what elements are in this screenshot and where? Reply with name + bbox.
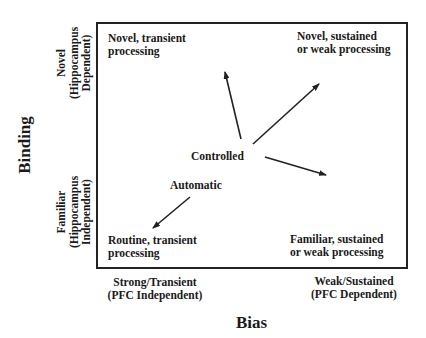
x-right-label-line-1: Weak/Sustained: [304, 275, 404, 288]
arrow-controlled-to-familiar-sustained: [265, 157, 326, 175]
arrow-controlled-to-novel-transient: [225, 72, 241, 139]
x-axis-left-label: Strong/Transient (PFC Independent): [100, 276, 210, 301]
x-axis-right-label: Weak/Sustained (PFC Dependent): [304, 275, 404, 300]
x-left-label-line-1: Strong/Transient: [100, 276, 210, 289]
arrow-controlled-to-novel-sustained: [253, 84, 319, 144]
x-left-label-line-2: (PFC Independent): [100, 289, 210, 302]
arrow-automatic-to-routine-transient: [153, 197, 190, 228]
x-axis-title: Bias: [236, 313, 267, 333]
x-right-label-line-2: (PFC Dependent): [304, 288, 404, 301]
